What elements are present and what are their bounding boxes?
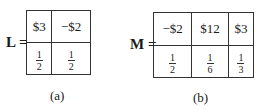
payoff-cell: $12 (192, 13, 229, 46)
caption-b: (b) (193, 90, 208, 106)
probability-cell: 12 (27, 43, 52, 75)
lottery-table-l: $3 −$2 12 12 (26, 10, 91, 75)
caption-a: (a) (50, 88, 64, 104)
payoff-cell: −$2 (154, 13, 192, 46)
payoff-cell: $3 (228, 13, 253, 46)
probability-cell: 12 (52, 43, 91, 75)
probability-cell: 13 (228, 46, 253, 78)
probability-cell: 12 (154, 46, 192, 78)
probability-cell: 16 (192, 46, 229, 78)
matrix-label-l: L = (6, 34, 27, 51)
lottery-table-m: −$2 $12 $3 12 16 13 (153, 12, 254, 78)
payoff-cell: $3 (27, 11, 52, 43)
payoff-cell: −$2 (52, 11, 91, 43)
